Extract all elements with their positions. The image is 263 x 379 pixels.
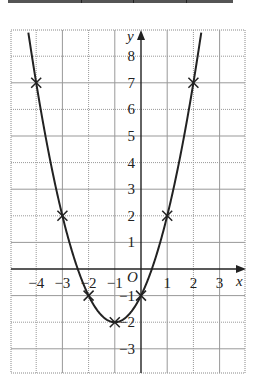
y-tick-label: 8 <box>128 48 136 64</box>
x-tick-label: −3 <box>54 275 70 291</box>
y-tick-label: 7 <box>128 75 136 91</box>
y-axis-arrow-icon <box>137 30 145 40</box>
y-tick-label: 4 <box>128 155 136 171</box>
y-axis-label: y <box>125 28 134 44</box>
y-tick-label: −2 <box>119 314 135 330</box>
y-tick-label: −1 <box>119 288 135 304</box>
x-axis-label: x <box>235 273 243 289</box>
y-tick-label: 6 <box>128 101 136 117</box>
y-tick-label: 5 <box>128 128 136 144</box>
x-tick-label: 2 <box>190 275 198 291</box>
quadratic-graph: −4−3−2−112387654321−1−2−3Oxy <box>0 0 263 379</box>
origin-label: O <box>127 269 138 285</box>
y-tick-label: 3 <box>128 181 136 197</box>
x-tick-label: −4 <box>28 275 44 291</box>
y-tick-label: 2 <box>128 208 136 224</box>
axis-labels: −4−3−2−112387654321−1−2−3Oxy <box>28 28 243 357</box>
y-tick-label: −3 <box>119 341 135 357</box>
y-tick-label: 1 <box>128 234 136 250</box>
x-tick-label: −2 <box>81 275 97 291</box>
x-tick-label: 1 <box>163 275 171 291</box>
x-tick-label: 3 <box>216 275 224 291</box>
